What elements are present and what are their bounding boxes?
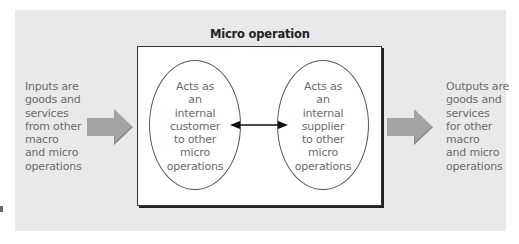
- output-arrow-icon: [387, 109, 434, 145]
- inputs-description: Inputs are goods and services from other…: [25, 80, 82, 173]
- internal-supplier-text: Acts as an internal supplier to other mi…: [278, 80, 368, 173]
- outputs-description: Outputs are goods and services for other…: [446, 80, 509, 173]
- bidirectional-arrow-icon: [230, 119, 288, 131]
- input-arrow-icon: [87, 109, 134, 145]
- edge-mark: [0, 206, 3, 212]
- micro-operation-title: Micro operation: [210, 27, 310, 41]
- internal-customer-text: Acts as an internal customer to other mi…: [150, 80, 240, 173]
